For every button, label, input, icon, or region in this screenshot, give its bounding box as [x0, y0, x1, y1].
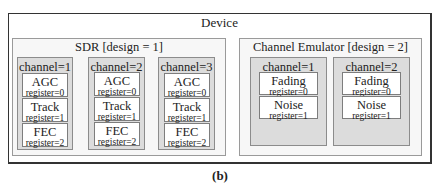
block-noise: Noise register=1: [259, 96, 318, 119]
device-title: Device: [9, 15, 430, 31]
block-name: Track: [23, 101, 67, 113]
block-register: register=2: [95, 137, 139, 147]
block-register: register=0: [95, 87, 139, 97]
block-name: AGC: [165, 76, 209, 88]
block-fec: FEC register=2: [164, 123, 210, 147]
block-name: Track: [95, 100, 139, 112]
block-fading: Fading register=0: [259, 72, 318, 95]
block-agc: AGC register=0: [164, 73, 210, 97]
block-name: FEC: [165, 126, 209, 138]
block-name: Track: [165, 101, 209, 113]
block-register: register=2: [23, 138, 67, 148]
block-fading: Fading register=0: [342, 72, 401, 95]
block-track: Track register=1: [164, 98, 210, 122]
block-track: Track register=1: [94, 97, 140, 121]
block-register: register=1: [95, 112, 139, 122]
block-register: register=2: [165, 138, 209, 148]
design-title: SDR [design = 1]: [13, 40, 225, 55]
block-noise: Noise register=1: [342, 96, 401, 119]
block-name: AGC: [95, 75, 139, 87]
block-fec: FEC register=2: [22, 123, 68, 147]
block-name: FEC: [23, 126, 67, 138]
block-register: register=1: [23, 113, 67, 123]
block-agc: AGC register=0: [22, 73, 68, 97]
block-register: register=0: [165, 88, 209, 98]
block-register: register=1: [343, 111, 400, 121]
block-fec: FEC register=2: [94, 122, 140, 146]
block-track: Track register=1: [22, 98, 68, 122]
block-register: register=1: [260, 111, 317, 121]
block-name: Noise: [260, 99, 317, 111]
block-agc: AGC register=0: [94, 72, 140, 96]
block-name: AGC: [23, 76, 67, 88]
block-name: Noise: [343, 99, 400, 111]
block-register: register=0: [23, 88, 67, 98]
block-name: FEC: [95, 125, 139, 137]
block-name: Fading: [260, 75, 317, 87]
figure-caption: (b): [0, 168, 440, 184]
block-name: Fading: [343, 75, 400, 87]
block-register: register=1: [165, 113, 209, 123]
design-title: Channel Emulator [design = 2]: [240, 40, 421, 55]
